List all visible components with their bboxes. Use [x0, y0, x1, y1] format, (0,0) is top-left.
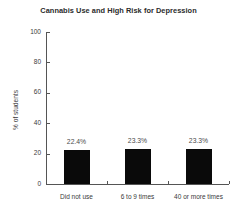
y-tick: 60: [0, 93, 46, 94]
y-tick: 80: [0, 62, 46, 63]
category-label: 6 to 9 times: [104, 193, 172, 200]
bar[interactable]: [186, 149, 212, 184]
category-label: 40 or more times: [165, 193, 233, 200]
y-tick-mark: [47, 32, 50, 33]
x-tick-mark: [107, 181, 108, 184]
y-tick: 0: [0, 184, 46, 185]
category-label: Did not use: [43, 193, 111, 200]
bar-value-label: 22.4%: [47, 138, 107, 145]
y-tick: 40: [0, 123, 46, 124]
y-tick: 20: [0, 154, 46, 155]
y-tick-label: 80: [3, 59, 41, 66]
y-tick-label: 100: [3, 29, 41, 36]
bar[interactable]: [64, 150, 90, 184]
y-tick-mark: [47, 123, 50, 124]
y-tick: 100: [0, 32, 46, 33]
y-axis-line: [46, 32, 47, 185]
y-tick-mark: [47, 93, 50, 94]
x-tick-mark: [168, 181, 169, 184]
bar-value-label: 23.3%: [169, 137, 229, 144]
y-tick-mark: [47, 154, 50, 155]
y-tick-label: 20: [3, 150, 41, 157]
y-tick-label: 60: [3, 89, 41, 96]
bar-chart: Cannabis Use and High Risk for Depressio…: [0, 0, 237, 224]
chart-title: Cannabis Use and High Risk for Depressio…: [0, 6, 237, 15]
bar-value-label: 23.3%: [108, 137, 168, 144]
y-tick-label: 0: [3, 181, 41, 188]
y-tick-label: 40: [3, 120, 41, 127]
y-tick-mark: [47, 62, 50, 63]
x-axis-line: [46, 184, 229, 185]
y-tick-mark: [47, 184, 50, 185]
bar[interactable]: [125, 149, 151, 184]
x-tick-mark: [229, 181, 230, 184]
